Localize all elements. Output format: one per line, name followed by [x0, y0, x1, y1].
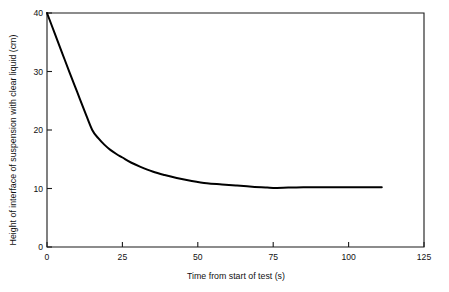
y-tick-label-40: 40 [33, 8, 43, 18]
series-line-0 [47, 13, 382, 188]
y-tick-label-10: 10 [33, 184, 43, 194]
plot-frame [47, 13, 424, 247]
x-tick-label-25: 25 [118, 252, 128, 262]
y-axis-ticks [47, 13, 52, 247]
x-tick-label-100: 100 [341, 252, 356, 262]
x-tick-label-0: 0 [45, 252, 50, 262]
data-series-group [47, 13, 382, 188]
y-axis-title: Height of interface of suspension with c… [8, 35, 18, 246]
sedimentation-chart-figure: 010203040 0255075100125 Time from start … [0, 0, 449, 292]
chart-canvas: 010203040 0255075100125 Time from start … [0, 0, 449, 292]
x-axis-title: Time from start of test (s) [187, 271, 285, 281]
y-tick-label-0: 0 [38, 242, 43, 252]
x-axis-ticks [47, 242, 424, 247]
x-tick-label-50: 50 [193, 252, 203, 262]
x-tick-label-125: 125 [417, 252, 432, 262]
y-tick-label-30: 30 [33, 67, 43, 77]
y-tick-label-20: 20 [33, 125, 43, 135]
x-axis-tick-labels: 0255075100125 [45, 252, 432, 262]
y-axis-tick-labels: 010203040 [33, 8, 43, 252]
x-tick-label-75: 75 [268, 252, 278, 262]
